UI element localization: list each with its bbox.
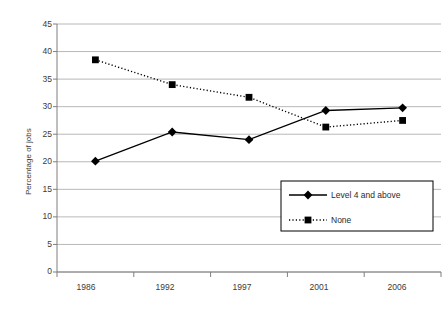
data-point-marker: [245, 135, 254, 144]
data-point-marker: [246, 94, 253, 101]
chart-container: Percentage of jobs 45 40 35 30 25 20 15 …: [0, 0, 447, 313]
data-point-marker: [169, 81, 176, 88]
series-line-1: [95, 60, 402, 127]
data-point-marker: [168, 128, 177, 137]
data-point-marker: [399, 117, 406, 124]
plot-area: [0, 0, 447, 313]
data-point-marker: [322, 124, 329, 131]
data-point-marker: [91, 157, 100, 166]
data-point-marker: [321, 106, 330, 115]
legend-box: [281, 181, 433, 231]
legend-marker-1: [305, 217, 312, 224]
data-point-marker: [92, 56, 99, 63]
data-point-marker: [398, 103, 407, 112]
legend-label-none: None: [331, 216, 351, 225]
legend-label-level4: Level 4 and above: [331, 191, 400, 200]
